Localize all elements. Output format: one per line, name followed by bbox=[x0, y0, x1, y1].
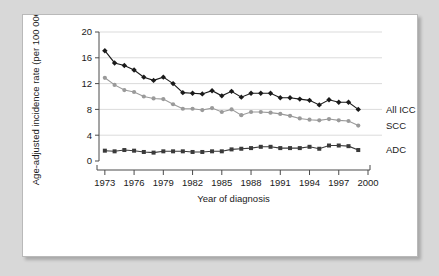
data-point-scc-1990 bbox=[268, 111, 272, 115]
data-point-adc-1980 bbox=[171, 149, 175, 153]
data-point-adc-1983 bbox=[200, 150, 204, 154]
data-point-adc-1999 bbox=[356, 148, 360, 152]
y-tick-label-0: 0 bbox=[87, 155, 92, 166]
data-point-adc-1988 bbox=[249, 146, 253, 150]
data-point-adc-1993 bbox=[298, 146, 302, 150]
series-line-all-icc bbox=[105, 51, 358, 110]
data-point-adc-1990 bbox=[269, 145, 273, 149]
data-point-all-icc-1988 bbox=[248, 91, 253, 96]
data-point-adc-1987 bbox=[239, 147, 243, 151]
x-tick-label-1979: 1979 bbox=[153, 177, 174, 188]
x-tick-label-2000: 2000 bbox=[357, 177, 378, 188]
data-point-adc-1991 bbox=[278, 146, 282, 150]
data-point-adc-1976 bbox=[132, 149, 136, 153]
data-point-scc-1994 bbox=[307, 118, 311, 122]
data-point-adc-1975 bbox=[122, 148, 126, 152]
data-point-scc-1997 bbox=[337, 118, 341, 122]
y-tick-label-20: 20 bbox=[81, 26, 92, 37]
data-point-scc-1995 bbox=[317, 118, 321, 122]
data-point-adc-1992 bbox=[288, 146, 292, 150]
data-point-adc-1995 bbox=[317, 147, 321, 151]
data-point-scc-1988 bbox=[249, 110, 253, 114]
data-point-adc-1997 bbox=[337, 144, 341, 148]
data-point-scc-1978 bbox=[151, 96, 155, 100]
data-point-scc-1980 bbox=[171, 102, 175, 106]
data-point-all-icc-1982 bbox=[190, 91, 195, 96]
data-point-all-icc-1990 bbox=[268, 91, 273, 96]
data-point-all-icc-1978 bbox=[151, 78, 156, 83]
x-axis-title: Year of diagnosis bbox=[197, 193, 270, 204]
series-label-scc: SCC bbox=[386, 120, 406, 131]
data-point-all-icc-1993 bbox=[297, 96, 302, 101]
data-point-adc-1989 bbox=[259, 145, 263, 149]
data-point-adc-1994 bbox=[308, 145, 312, 149]
data-point-adc-1984 bbox=[210, 149, 214, 153]
data-point-all-icc-1987 bbox=[239, 94, 244, 99]
data-point-scc-1991 bbox=[278, 112, 282, 116]
y-tick-label-12: 12 bbox=[81, 78, 92, 89]
data-point-adc-1982 bbox=[191, 150, 195, 154]
data-point-scc-1983 bbox=[200, 108, 204, 112]
data-point-adc-1974 bbox=[113, 149, 117, 153]
chart-panel: 0481216201973197619791982198519881991199… bbox=[22, 14, 418, 257]
y-tick-label-8: 8 bbox=[87, 104, 92, 115]
data-point-scc-1973 bbox=[103, 76, 107, 80]
x-tick-label-1976: 1976 bbox=[124, 177, 145, 188]
x-tick-label-1973: 1973 bbox=[94, 177, 115, 188]
data-point-all-icc-1995 bbox=[317, 102, 322, 107]
data-point-all-icc-1984 bbox=[209, 88, 214, 93]
data-point-all-icc-1994 bbox=[307, 98, 312, 103]
data-point-scc-1989 bbox=[259, 110, 263, 114]
data-point-scc-1999 bbox=[356, 123, 360, 127]
x-tick-label-1997: 1997 bbox=[328, 177, 349, 188]
data-point-scc-1996 bbox=[327, 117, 331, 121]
data-point-scc-1993 bbox=[298, 116, 302, 120]
data-point-all-icc-1997 bbox=[336, 100, 341, 105]
series-line-scc bbox=[105, 78, 358, 126]
data-point-adc-1996 bbox=[327, 144, 331, 148]
series-label-adc: ADC bbox=[386, 144, 406, 155]
data-point-scc-1974 bbox=[112, 83, 116, 87]
data-point-scc-1979 bbox=[161, 97, 165, 101]
data-point-adc-1977 bbox=[142, 150, 146, 154]
y-axis-title: Age-adjusted incidence rate (per 100 000… bbox=[30, 15, 41, 185]
data-point-adc-1985 bbox=[220, 149, 224, 153]
figure-background: 0481216201973197619791982198519881991199… bbox=[0, 0, 439, 276]
data-point-all-icc-1986 bbox=[229, 89, 234, 94]
data-point-all-icc-1989 bbox=[258, 91, 263, 96]
x-tick-label-1985: 1985 bbox=[211, 177, 232, 188]
x-tick-label-1982: 1982 bbox=[182, 177, 203, 188]
data-point-scc-1977 bbox=[142, 94, 146, 98]
data-point-scc-1981 bbox=[181, 107, 185, 111]
data-point-all-icc-1975 bbox=[122, 63, 127, 68]
data-point-scc-1982 bbox=[190, 107, 194, 111]
data-point-scc-1976 bbox=[132, 90, 136, 94]
line-chart: 0481216201973197619791982198519881991199… bbox=[23, 15, 417, 256]
data-point-scc-1998 bbox=[346, 119, 350, 123]
y-tick-label-16: 16 bbox=[81, 52, 92, 63]
data-point-scc-1992 bbox=[288, 114, 292, 118]
data-point-adc-1998 bbox=[347, 144, 351, 148]
data-point-scc-1975 bbox=[122, 88, 126, 92]
x-tick-label-1991: 1991 bbox=[270, 177, 291, 188]
data-point-all-icc-1983 bbox=[200, 91, 205, 96]
data-point-all-icc-1996 bbox=[326, 97, 331, 102]
data-point-scc-1985 bbox=[220, 110, 224, 114]
data-point-scc-1986 bbox=[229, 107, 233, 111]
data-point-scc-1984 bbox=[210, 106, 214, 110]
data-point-scc-1987 bbox=[239, 113, 243, 117]
data-point-adc-1978 bbox=[152, 151, 156, 155]
x-tick-label-1994: 1994 bbox=[299, 177, 320, 188]
data-point-all-icc-1992 bbox=[287, 95, 292, 100]
data-point-all-icc-1985 bbox=[219, 93, 224, 98]
series-label-all-icc: All ICC bbox=[386, 104, 416, 115]
data-point-adc-1979 bbox=[161, 149, 165, 153]
data-point-adc-1973 bbox=[103, 149, 107, 153]
y-tick-label-4: 4 bbox=[87, 130, 92, 141]
data-point-all-icc-1991 bbox=[278, 95, 283, 100]
data-point-adc-1981 bbox=[181, 149, 185, 153]
x-tick-label-1988: 1988 bbox=[240, 177, 261, 188]
data-point-adc-1986 bbox=[230, 147, 234, 151]
